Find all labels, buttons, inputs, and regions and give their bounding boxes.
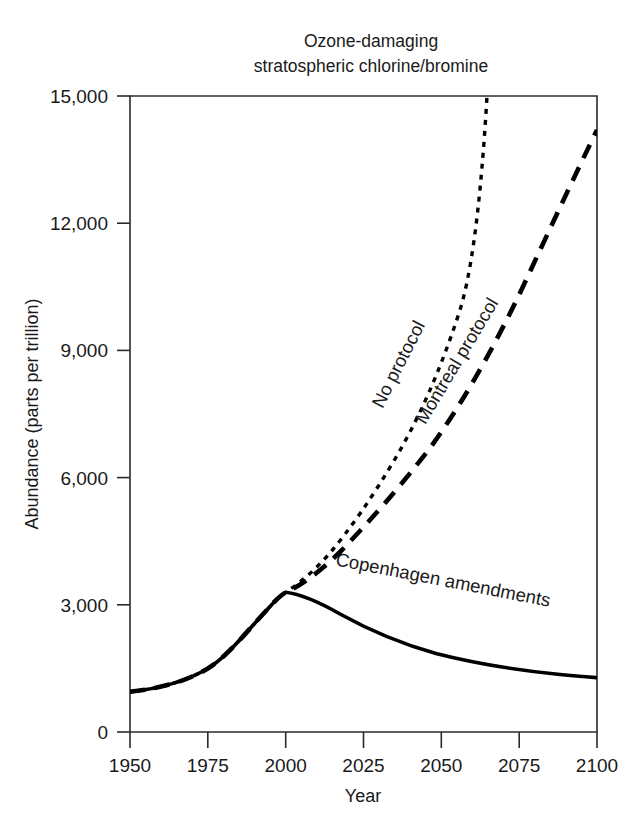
x-axis-ticks: [130, 732, 597, 748]
chart-title-line-2: stratospheric chlorine/bromine: [254, 56, 488, 76]
x-tick-label-2100: 2100: [576, 755, 618, 776]
y-tick-label-6000: 6,000: [60, 468, 108, 489]
x-tick-label-2025: 2025: [342, 755, 384, 776]
series-label-montreal-protocol: Montreal protocol: [411, 294, 503, 427]
y-axis-ticks: [117, 96, 130, 732]
ozone-abundance-line-chart: Ozone-damaging stratospheric chlorine/br…: [0, 0, 644, 818]
series-line-copenhagen-amendments: [130, 592, 597, 691]
y-tick-label-15000: 15,000: [50, 86, 108, 107]
x-tick-label-2000: 2000: [265, 755, 307, 776]
series-label-copenhagen-amendments: Copenhagen amendments: [334, 549, 552, 611]
x-tick-label-2050: 2050: [420, 755, 462, 776]
y-tick-label-9000: 9,000: [60, 340, 108, 361]
y-tick-label-3000: 3,000: [60, 595, 108, 616]
chart-title-line-1: Ozone-damaging: [304, 31, 438, 51]
x-tick-label-1950: 1950: [109, 755, 151, 776]
x-axis-title: Year: [345, 786, 381, 806]
y-tick-label-12000: 12,000: [50, 213, 108, 234]
x-axis-tick-labels: 1950 1975 2000 2025 2050 2075 2100: [109, 755, 618, 776]
chart-figure: Ozone-damaging stratospheric chlorine/br…: [0, 0, 644, 818]
x-tick-label-2075: 2075: [498, 755, 540, 776]
y-axis-tick-labels: 0 3,000 6,000 9,000 12,000 15,000: [50, 86, 108, 743]
y-tick-label-0: 0: [97, 722, 108, 743]
y-axis-title: Abundance (parts per trillion): [22, 298, 42, 529]
plot-frame: [130, 96, 597, 732]
series-line-montreal-protocol: [130, 130, 597, 692]
series-label-no-protocol: No protocol: [367, 317, 429, 411]
x-tick-label-1975: 1975: [187, 755, 229, 776]
